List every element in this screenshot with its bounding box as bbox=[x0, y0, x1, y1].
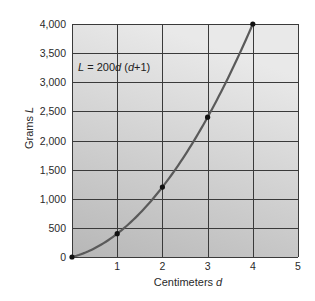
y-tick-label: 500 bbox=[48, 222, 66, 234]
data-point-marker bbox=[69, 254, 74, 259]
x-tick-label: 1 bbox=[114, 260, 120, 272]
y-tick-label: 4,000 bbox=[40, 18, 66, 30]
x-tick-label: 4 bbox=[250, 260, 256, 272]
y-tick-label: 1,000 bbox=[40, 193, 66, 205]
y-tick-label: 2,500 bbox=[40, 105, 66, 117]
x-axis-ticks: 12345 bbox=[114, 260, 301, 272]
y-tick-label: 2,000 bbox=[40, 135, 66, 147]
x-tick-label: 3 bbox=[205, 260, 211, 272]
y-tick-label: 3,500 bbox=[40, 47, 66, 59]
chart: 05001,0001,5002,0002,5003,0003,5004,000 … bbox=[0, 0, 315, 301]
data-point-marker bbox=[250, 21, 255, 26]
data-point-marker bbox=[160, 185, 165, 190]
x-tick-label: 2 bbox=[159, 260, 165, 272]
formula-annotation: L = 200d (d+1) bbox=[78, 61, 150, 73]
y-tick-label: 3,000 bbox=[40, 76, 66, 88]
y-axis-ticks: 05001,0001,5002,0002,5003,0003,5004,000 bbox=[40, 18, 66, 263]
y-tick-label: 0 bbox=[60, 251, 66, 263]
x-tick-label: 5 bbox=[295, 260, 301, 272]
data-point-marker bbox=[205, 115, 210, 120]
data-point-marker bbox=[115, 231, 120, 236]
y-axis-title: Grams L bbox=[23, 107, 35, 149]
x-axis-title: Centimeters d bbox=[154, 276, 223, 288]
plot-area bbox=[72, 24, 298, 257]
y-tick-label: 1,500 bbox=[40, 164, 66, 176]
